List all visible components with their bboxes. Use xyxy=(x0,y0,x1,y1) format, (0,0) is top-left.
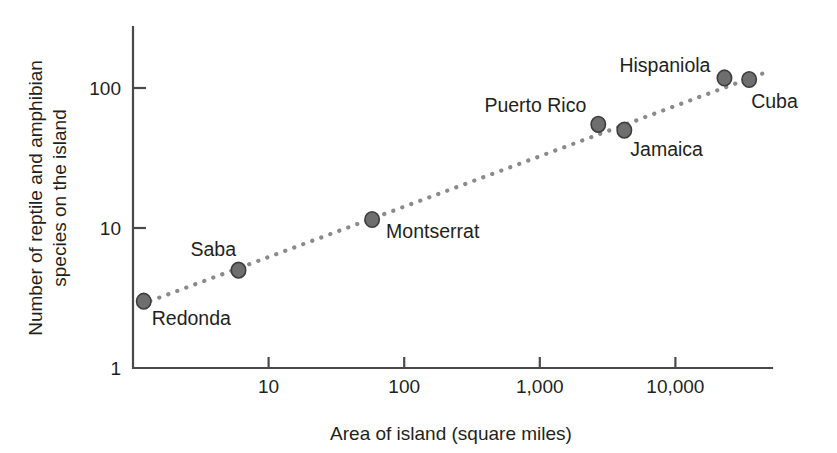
data-point-label: Redonda xyxy=(152,307,231,329)
y-axis-ticks xyxy=(133,88,146,228)
x-tick-label: 1,000 xyxy=(516,376,564,397)
data-point-label: Jamaica xyxy=(630,138,703,160)
x-axis-title: Area of island (square miles) xyxy=(330,423,572,444)
x-tick-label: 10,000 xyxy=(646,376,704,397)
data-point-puerto-rico[interactable]: Puerto Rico xyxy=(484,94,605,132)
species-area-chart-figure: RedondaSabaMontserratPuerto RicoJamaicaH… xyxy=(0,0,837,453)
data-point-label: Puerto Rico xyxy=(484,94,586,116)
data-point-marker[interactable] xyxy=(231,262,245,278)
x-axis-tick-labels: 101001,00010,000 xyxy=(258,376,704,397)
data-point-label: Hispaniola xyxy=(619,54,710,76)
data-point-jamaica[interactable]: Jamaica xyxy=(617,122,703,160)
chart-plot-area: RedondaSabaMontserratPuerto RicoJamaicaH… xyxy=(0,0,837,453)
data-point-redonda[interactable]: Redonda xyxy=(137,293,232,329)
data-point-marker[interactable] xyxy=(617,122,631,138)
y-axis-title-line-2: species on the island xyxy=(49,109,70,286)
y-tick-label: 10 xyxy=(100,218,121,239)
data-point-marker[interactable] xyxy=(137,293,151,309)
y-axis-tick-labels: 110100 xyxy=(89,78,121,379)
y-tick-label: 100 xyxy=(89,78,121,99)
data-point-saba[interactable]: Saba xyxy=(191,238,246,278)
data-point-cuba[interactable]: Cuba xyxy=(742,72,798,112)
x-axis-ticks xyxy=(269,357,676,368)
y-tick-label: 1 xyxy=(110,358,121,379)
data-point-label: Saba xyxy=(191,238,237,260)
y-axis-title-line-1: Number of reptile and amphibian xyxy=(25,60,46,336)
data-point-marker[interactable] xyxy=(365,212,379,228)
x-tick-label: 10 xyxy=(258,376,279,397)
data-point-montserrat[interactable]: Montserrat xyxy=(365,212,480,242)
data-point-label: Montserrat xyxy=(386,220,480,242)
data-point-marker[interactable] xyxy=(591,117,605,133)
data-point-marker[interactable] xyxy=(742,72,756,88)
data-point-hispaniola[interactable]: Hispaniola xyxy=(619,54,731,86)
data-point-label: Cuba xyxy=(751,90,798,112)
data-point-marker[interactable] xyxy=(717,70,731,86)
x-tick-label: 100 xyxy=(388,376,420,397)
